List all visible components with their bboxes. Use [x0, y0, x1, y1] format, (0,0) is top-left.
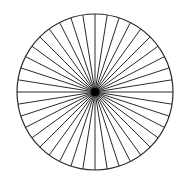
center-hub — [91, 88, 99, 96]
radial-wheel-diagram — [0, 0, 188, 181]
